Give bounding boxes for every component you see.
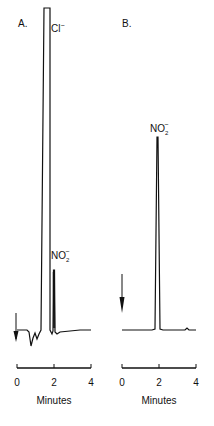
tick-label: 0: [119, 377, 125, 388]
tick-label: 2: [156, 377, 162, 388]
panel-b-label: B.: [122, 18, 131, 29]
panel-a-label: A.: [18, 18, 27, 29]
x-axis-b: 0 2 4 Minutes: [119, 364, 199, 406]
peak-label-nitrite-b: NO2−: [150, 121, 169, 136]
chromatograms-svg: A. Cl− NO2− 0 2 4 Minutes B. NO2−: [0, 0, 214, 426]
x-axis-a: 0 2 4 Minutes: [14, 364, 94, 406]
peak-label-chloride: Cl−: [51, 22, 65, 34]
injection-arrow-icon: [120, 274, 125, 313]
chromatogram-figure: A. Cl− NO2− 0 2 4 Minutes B. NO2−: [0, 0, 214, 426]
peak-label-nitrite-a: NO2−: [51, 248, 70, 263]
tick-label: 0: [14, 377, 20, 388]
injection-arrow-icon: [14, 313, 19, 342]
tick-label: 4: [88, 377, 94, 388]
panel-b: B. NO2− 0 2 4 Minutes: [119, 18, 199, 406]
x-axis-title-b: Minutes: [141, 395, 176, 406]
panel-a: A. Cl− NO2− 0 2 4 Minutes: [14, 8, 95, 406]
tick-label: 4: [193, 377, 199, 388]
x-axis-title-a: Minutes: [36, 395, 71, 406]
trace-b: [122, 137, 196, 330]
tick-label: 2: [51, 377, 57, 388]
